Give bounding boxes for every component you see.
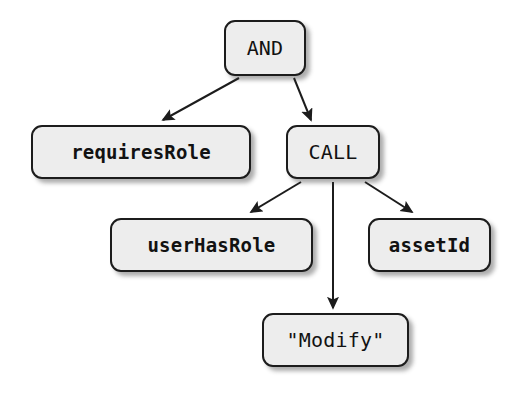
- node-requires-role-label: requiresRole: [71, 143, 211, 162]
- node-asset-id-label: assetId: [389, 236, 470, 255]
- node-modify-literal-label: "Modify": [287, 330, 385, 350]
- edges-group: [163, 78, 412, 308]
- node-asset-id[interactable]: assetId: [368, 218, 491, 272]
- node-user-has-role[interactable]: userHasRole: [110, 218, 313, 272]
- node-call[interactable]: CALL: [286, 125, 380, 179]
- node-user-has-role-label: userHasRole: [147, 236, 275, 255]
- edge-call-userHasRole: [251, 182, 301, 212]
- node-and[interactable]: AND: [224, 20, 306, 76]
- node-modify-literal[interactable]: "Modify": [262, 313, 409, 367]
- edge-and-call: [294, 78, 311, 120]
- edge-call-assetId: [365, 182, 412, 212]
- node-requires-role[interactable]: requiresRole: [31, 125, 251, 179]
- node-call-label: CALL: [309, 142, 358, 162]
- edge-and-requiresRole: [163, 78, 239, 120]
- diagram-canvas: AND requiresRole CALL userHasRole assetI…: [0, 0, 521, 400]
- node-and-label: AND: [247, 38, 284, 58]
